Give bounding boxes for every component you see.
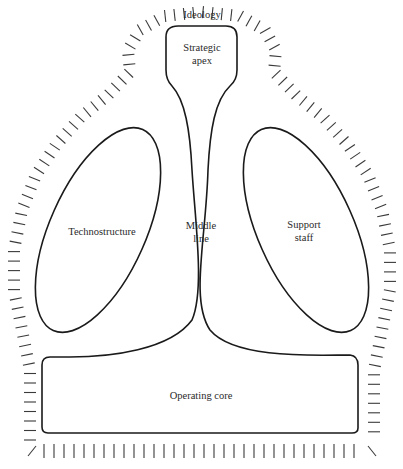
hatch-mark [12,232,24,234]
hatch-mark [381,233,393,235]
hatch-mark [123,64,135,65]
hatch-mark [19,344,31,346]
hatch-mark [105,90,114,98]
hatch-mark [270,56,282,57]
hatch-mark [15,213,27,215]
hatch-mark [28,446,36,456]
hatch-mark [269,44,280,50]
hatch-mark [13,222,25,224]
hatch-mark [111,83,120,91]
hatch-mark [17,335,29,337]
hatch-mark [14,316,26,318]
hatch-mark [345,145,355,152]
support-staff-label: Support [287,219,320,230]
hatch-mark [174,9,175,21]
hatch-mark [56,136,65,144]
hatch-mark [10,298,22,300]
hatch-mark [34,167,44,174]
hatch-mark [375,336,387,338]
hatch-mark [10,241,22,243]
hatch-mark [25,185,36,189]
hatch-mark [39,159,49,166]
hatch-mark [269,65,281,66]
strategic-apex-label: Strategic [183,42,221,53]
hatch-mark [371,355,383,357]
hatch-mark [369,364,381,366]
operating-core-label: Operating core [170,390,233,401]
hatch-mark [299,96,307,105]
hatch-mark [69,121,78,129]
hatch-mark [83,108,91,117]
hatch-mark [372,195,383,200]
technostructure-label: Technostructure [68,226,136,237]
hatch-mark [45,151,55,158]
hatch-mark [260,28,271,34]
hatch-mark [350,152,360,159]
hatch-mark [278,77,287,85]
hatch-mark [124,69,133,77]
hatch-mark [18,203,29,208]
middle-line-label: Middle [186,220,217,231]
support-staff-ellipse [217,110,394,350]
hatch-mark [98,95,106,104]
hatch-mark [373,346,385,348]
hatch-mark [368,187,379,191]
hatch-mark [321,115,330,123]
hatch-mark [361,168,371,175]
hatch-mark [123,54,135,55]
hatch-mark [377,327,389,329]
hatch-mark [384,290,396,292]
hatch-mark [383,242,395,244]
hatch-mark [382,299,394,301]
hatch-mark [272,70,281,78]
hatch-mark [377,214,389,216]
hatch-mark [307,102,315,111]
hatch-mark [125,43,135,49]
hatch-mark [364,178,375,182]
middle-line-label-2: line [193,233,209,244]
hatch-mark [75,114,84,122]
hatch-mark [292,91,301,99]
hatch-mark [137,25,143,35]
hatch-mark [265,36,276,42]
hatch-mark [314,108,322,117]
hatch-mark [21,354,33,356]
hatch-mark [231,9,232,21]
hatch-mark [254,20,260,31]
hatch-mark [340,137,349,145]
hatch-mark [29,177,40,181]
hatch-mark [246,16,252,27]
hatch-mark [63,128,72,136]
support-staff-label-2: staff [295,232,314,243]
hatch-mark [327,122,336,130]
hatch-mark [91,102,99,111]
organization-diagram: Ideology Strategic apex Technostructure … [0,0,403,469]
hatch-mark [50,143,60,150]
hatch-mark [378,318,390,320]
strategic-apex-label-2: apex [192,55,213,66]
hatch-mark [165,10,166,22]
hatch-mark [130,35,140,41]
hatch-mark [146,20,152,31]
hatch-mark [333,129,342,137]
hatch-mark [285,84,294,92]
hatch-mark [23,363,35,365]
hatch-mark [118,76,127,84]
hatch-mark [379,224,391,226]
hatch-mark [368,446,376,456]
hatch-mark [22,194,33,199]
hatch-mark [221,8,222,20]
hatch-mark [375,204,386,209]
hatch-mark [356,160,366,167]
hatch-mark [154,15,160,25]
ideology-label: Ideology [183,9,221,20]
hatch-mark [12,307,24,309]
hatch-mark [380,308,392,310]
hatch-mark [16,326,28,328]
hatch-mark [238,11,244,22]
